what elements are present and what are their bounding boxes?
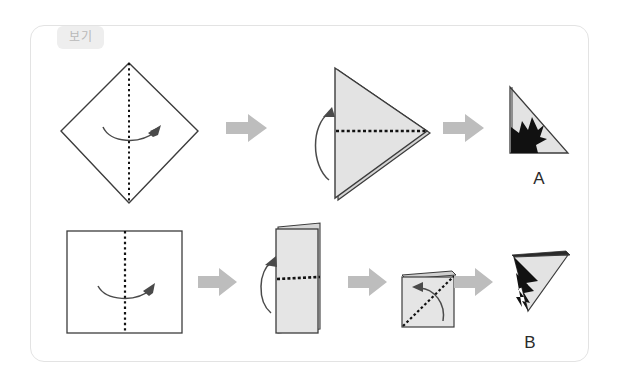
rect-front-face (276, 229, 318, 333)
step-a1-diamond (55, 55, 205, 210)
step-arrow-a-2 (441, 110, 487, 146)
right-arrow-icon (454, 268, 493, 296)
step-b1-square (62, 227, 192, 337)
step-b4-result: B (504, 243, 584, 328)
step-a3-result: A (500, 83, 580, 163)
right-arrow-icon (226, 114, 267, 142)
sequence-b: B (0, 215, 619, 365)
motion-arrow-curved-up (316, 107, 336, 180)
step-b2-folded-rect (248, 221, 358, 341)
triangle-front-layer (335, 68, 427, 198)
right-arrow-icon (348, 268, 387, 296)
small-square-face (402, 277, 454, 327)
step-arrow-b-3 (452, 265, 496, 299)
step-a2-triangle (305, 65, 445, 210)
right-arrow-icon (443, 114, 484, 142)
result-label-b: B (510, 333, 550, 353)
result-label-a: A (519, 169, 559, 189)
origami-figure: 보기 (0, 0, 619, 384)
step-arrow-b-1 (196, 265, 240, 299)
step-arrow-a-1 (224, 110, 270, 146)
motion-arrow-curved-up-left (261, 256, 277, 313)
example-badge: 보기 (57, 26, 104, 49)
sequence-a: A (0, 55, 619, 215)
right-arrow-icon (198, 268, 237, 296)
step-arrow-b-2 (346, 265, 390, 299)
